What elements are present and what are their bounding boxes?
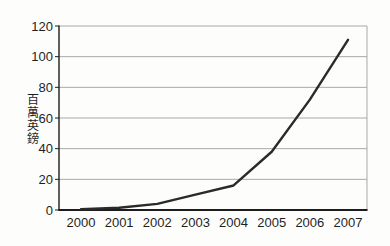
x-tick-label-2005: 2005 bbox=[257, 215, 286, 230]
x-tick-label-2002: 2002 bbox=[143, 215, 172, 230]
y-tick-label-120: 120 bbox=[31, 19, 53, 34]
data-line-series bbox=[81, 40, 348, 209]
chart-canvas: 0204060801001202000200120022003200420052… bbox=[0, 0, 390, 246]
x-tick-label-2004: 2004 bbox=[219, 215, 248, 230]
y-tick-label-80: 80 bbox=[39, 80, 53, 95]
x-tick-label-2006: 2006 bbox=[295, 215, 324, 230]
y-tick-label-100: 100 bbox=[31, 49, 53, 64]
y-tick-label-40: 40 bbox=[39, 141, 53, 156]
x-tick-label-2007: 2007 bbox=[334, 215, 363, 230]
y-tick-label-0: 0 bbox=[46, 203, 53, 218]
y-tick-label-60: 60 bbox=[39, 111, 53, 126]
line-chart: 0204060801001202000200120022003200420052… bbox=[0, 0, 390, 246]
x-tick-label-2001: 2001 bbox=[105, 215, 134, 230]
y-tick-label-20: 20 bbox=[39, 172, 53, 187]
x-tick-label-2000: 2000 bbox=[67, 215, 96, 230]
y-axis-title: 百萬英鎊 bbox=[24, 93, 38, 145]
x-tick-label-2003: 2003 bbox=[181, 215, 210, 230]
